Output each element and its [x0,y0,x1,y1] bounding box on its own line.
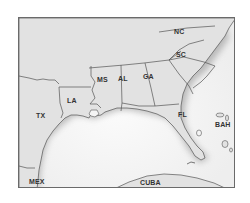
label-tx: TX [36,112,45,119]
label-nc: NC [174,28,184,35]
label-al: AL [118,75,128,82]
lake-okeechobee [197,130,202,136]
map-frame: NC SC GA AL MS LA TX FL BAH MEX CUBA [18,17,235,188]
label-mex: MEX [29,178,44,185]
label-la: LA [67,97,77,104]
map-canvas [19,18,235,188]
label-ms: MS [97,76,108,83]
label-cuba: CUBA [140,179,161,186]
label-fl: FL [178,111,187,118]
label-ga: GA [143,73,154,80]
label-sc: SC [176,51,186,58]
label-bah: BAH [215,121,230,128]
